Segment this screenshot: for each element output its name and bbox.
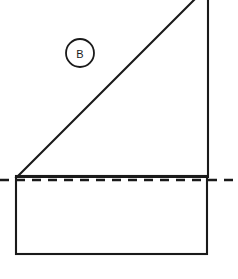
label-badge-b: B [66, 39, 94, 67]
figure-drawing: B [0, 0, 238, 279]
figure-canvas: B [0, 0, 238, 279]
figure-background [0, 0, 238, 279]
label-text-b: B [76, 48, 83, 60]
